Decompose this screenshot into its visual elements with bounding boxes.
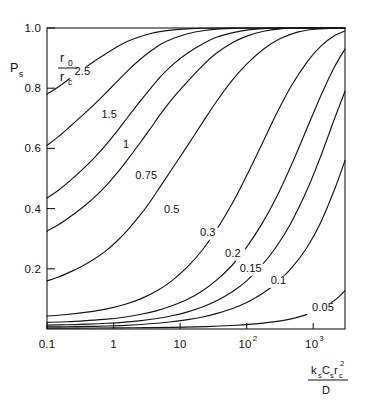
x-title-k: k [311,364,317,376]
curve-label-1-5: 1.5 [101,108,117,120]
y-tick-label: 0.8 [24,82,41,94]
x-tick-label: 10 [305,338,318,350]
x-title-denominator: D [322,384,330,396]
y-axis-title-base: P [10,61,18,75]
x-tick-label: 10 [238,338,251,350]
y-tick-label: 0.2 [24,263,41,275]
curve-label-0-15: 0.15 [240,262,262,274]
curve-label-0-1: 0.1 [271,274,287,286]
x-title-r-sub: c [339,371,343,380]
y-axis-title-sub: s [19,69,23,79]
curve-1-5 [47,28,345,145]
x-tick-label-exponent: 2 [253,334,258,343]
x-tick-label-exponent: 3 [319,334,324,343]
curve-0-5 [47,28,345,281]
curve-2-5 [47,28,345,94]
x-tick-label: 0.1 [39,338,56,350]
curve-label-0-05: 0.05 [312,301,334,313]
y-tick-label: 0.4 [24,203,41,215]
legend-den-base: r [60,70,64,84]
curve-labels-group: 2.51.510.750.50.30.20.150.10.05 [70,65,339,315]
chart-svg: 2.51.510.750.50.30.20.150.10.05 0.111010… [0,0,387,407]
curve-0-2 [47,49,345,322]
x-tick-label: 10 [174,338,187,350]
x-axis-title-numerator: k s C s r c 2 [311,359,344,380]
x-tick-label: 1 [110,338,117,350]
curve-label-0-5: 0.5 [164,203,180,215]
y-axis-tick-labels: 1.00.80.60.40.2 [24,22,41,275]
curve-label-0-75: 0.75 [135,169,157,181]
curve-label-2-5: 2.5 [75,65,91,77]
y-tick-label: 0.6 [24,142,41,154]
x-title-r-sup: 2 [340,359,344,368]
chart-figure: 2.51.510.750.50.30.20.150.10.05 0.111010… [0,0,387,407]
y-axis-ticks [47,28,55,269]
x-title-r: r [334,364,338,376]
curve-label-0-3: 0.3 [200,226,216,238]
curve-label-1: 1 [123,138,129,150]
curve-1 [47,28,345,198]
x-axis-title: k s C s r c 2 D [308,359,348,396]
curve-0-75 [47,28,345,231]
y-axis-title: P s [10,61,23,79]
curve-0-15 [47,91,345,325]
curve-label-0-2: 0.2 [225,247,241,259]
legend-num-base: r [60,51,64,65]
y-tick-label: 1.0 [24,22,41,34]
curve-0-1 [47,160,345,326]
x-title-C: C [322,364,330,376]
legend-num-sub: 0 [68,58,73,68]
x-axis-tick-labels: 0.1110102103 [39,334,325,350]
